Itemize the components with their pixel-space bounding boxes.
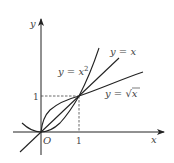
label-y-equals-x: y = x <box>109 46 136 57</box>
function-graph-figure: y x O 1 1 y = x2 y = x y = √x <box>0 0 174 163</box>
label-y-equals-x-squared: y = x2 <box>57 65 89 77</box>
y-tick-1: 1 <box>33 92 39 102</box>
graph-canvas: y x O 1 1 y = x2 y = x y = √x <box>0 0 174 163</box>
curve-y-equals-sqrt-x <box>41 72 143 132</box>
y-axis-label: y <box>29 18 36 29</box>
origin-label: O <box>43 135 51 146</box>
label-y-equals-sqrt-x: y = √x <box>104 88 138 99</box>
x-tick-1: 1 <box>76 136 82 146</box>
curve-y-equals-x-squared <box>22 48 99 132</box>
x-axis-label: x <box>151 134 157 145</box>
